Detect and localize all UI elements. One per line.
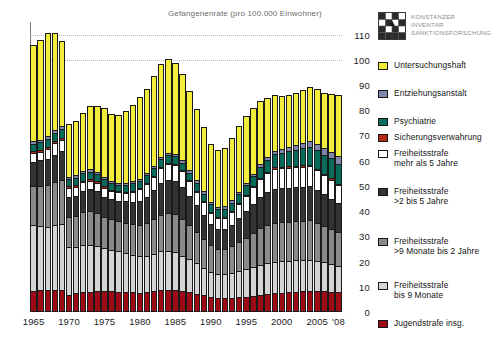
- bar-1991[interactable]: [215, 22, 221, 312]
- legend-label: Psychiatrie: [394, 116, 436, 126]
- bar-1974[interactable]: [94, 22, 100, 312]
- bar-2001[interactable]: [286, 22, 292, 312]
- bar-segment: [101, 188, 107, 197]
- bar-segment: [179, 291, 185, 312]
- bar-segment: [45, 227, 51, 290]
- bar-segment: [250, 176, 256, 186]
- bar-segment: [307, 87, 313, 141]
- bar-segment: [151, 177, 157, 191]
- legend-item[interactable]: Freiheitsstrafe>9 Monate bis 2 Jahre: [378, 236, 479, 257]
- bar-1985[interactable]: [172, 22, 178, 312]
- bar-1993[interactable]: [229, 22, 235, 312]
- bar-segment: [130, 192, 136, 202]
- bar-1965[interactable]: [30, 22, 36, 312]
- bar-segment: [257, 179, 263, 197]
- bar-segment: [314, 261, 320, 291]
- legend-item[interactable]: Untersuchungshaft: [378, 60, 466, 70]
- bar-1969[interactable]: [59, 22, 65, 312]
- bar-1987[interactable]: [186, 22, 192, 312]
- bar-segment: [229, 212, 235, 225]
- bar-segment: [144, 184, 150, 197]
- bar-segment: [30, 153, 36, 162]
- legend-item[interactable]: Jugendstrafe insg.: [378, 318, 464, 328]
- x-tick-1965: 1965: [23, 316, 45, 327]
- bar-segment: [272, 262, 278, 294]
- legend-label: Sicherungsverwahrung: [394, 132, 482, 142]
- bar-1968[interactable]: [52, 22, 58, 312]
- bar-1979[interactable]: [130, 22, 136, 312]
- bar-segment: [59, 41, 65, 127]
- bar-segment: [257, 167, 263, 178]
- bar-segment: [335, 232, 341, 266]
- bar-segment: [66, 217, 72, 247]
- bar-1972[interactable]: [80, 22, 86, 312]
- y-tick-60: 60: [344, 155, 370, 166]
- bar-1978[interactable]: [123, 22, 129, 312]
- bar-1980[interactable]: [137, 22, 143, 312]
- bar-segment: [194, 205, 200, 231]
- bar-series-container: [30, 22, 342, 312]
- bar-segment: [236, 218, 242, 242]
- legend-label: Entziehungsanstalt: [394, 88, 467, 98]
- bar-segment: [243, 297, 249, 312]
- legend-item[interactable]: Entziehungsanstalt: [378, 88, 467, 98]
- bar-segment: [165, 155, 171, 163]
- bar-segment: [52, 290, 58, 312]
- bar-1971[interactable]: [73, 22, 79, 312]
- legend-swatch: [378, 90, 388, 98]
- bar-1983[interactable]: [158, 22, 164, 312]
- bar-segment: [94, 213, 100, 246]
- bar-1999[interactable]: [272, 22, 278, 312]
- bar-segment: [30, 225, 36, 291]
- legend-item[interactable]: Sicherungsverwahrung: [378, 132, 482, 142]
- bar-1981[interactable]: [144, 22, 150, 312]
- bar-segment: [123, 253, 129, 292]
- legend-item[interactable]: Freiheitsstrafebis 9 Monate: [378, 280, 449, 301]
- bar-1997[interactable]: [257, 22, 263, 312]
- bar-segment: [314, 190, 320, 223]
- bar-1973[interactable]: [87, 22, 93, 312]
- legend-item[interactable]: Psychiatrie: [378, 116, 436, 126]
- bar-1998[interactable]: [264, 22, 270, 312]
- bar-segment: [158, 290, 164, 312]
- bar-2002[interactable]: [293, 22, 299, 312]
- bar-1995[interactable]: [243, 22, 249, 312]
- bar-segment: [307, 147, 313, 165]
- bar-1970[interactable]: [66, 22, 72, 312]
- bar-1990[interactable]: [208, 22, 214, 312]
- bar-1975[interactable]: [101, 22, 107, 312]
- y-tick-0: 0: [344, 307, 370, 318]
- bar-1982[interactable]: [151, 22, 157, 312]
- bar-segment: [293, 187, 299, 221]
- bar-1986[interactable]: [179, 22, 185, 312]
- bar-1988[interactable]: [194, 22, 200, 312]
- bar-1992[interactable]: [222, 22, 228, 312]
- bar-1966[interactable]: [37, 22, 43, 312]
- bar-2008[interactable]: [335, 22, 341, 312]
- bar-segment: [279, 188, 285, 222]
- bar-2006[interactable]: [321, 22, 327, 312]
- bar-2005[interactable]: [314, 22, 320, 312]
- bar-2004[interactable]: [307, 22, 313, 312]
- bar-segment: [52, 182, 58, 225]
- bar-segment: [279, 293, 285, 312]
- bar-2000[interactable]: [279, 22, 285, 312]
- bar-1996[interactable]: [250, 22, 256, 312]
- bar-1977[interactable]: [115, 22, 121, 312]
- bar-1976[interactable]: [108, 22, 114, 312]
- bar-segment: [165, 251, 171, 290]
- bar-segment: [94, 183, 100, 192]
- bar-1984[interactable]: [165, 22, 171, 312]
- x-tick-2005: 2005: [306, 316, 328, 327]
- bar-2007[interactable]: [328, 22, 334, 312]
- bar-1989[interactable]: [201, 22, 207, 312]
- bar-segment: [222, 298, 228, 312]
- legend-item[interactable]: Freiheitsstrafemehr als 5 Jahre: [378, 148, 458, 169]
- bar-1994[interactable]: [236, 22, 242, 312]
- x-tick-1990: 1990: [200, 316, 222, 327]
- bar-2003[interactable]: [300, 22, 306, 312]
- legend-item[interactable]: Freiheitsstrafe>2 bis 5 Jahre: [378, 186, 449, 207]
- bar-segment: [37, 290, 43, 312]
- bar-segment: [115, 251, 121, 291]
- bar-1967[interactable]: [45, 22, 51, 312]
